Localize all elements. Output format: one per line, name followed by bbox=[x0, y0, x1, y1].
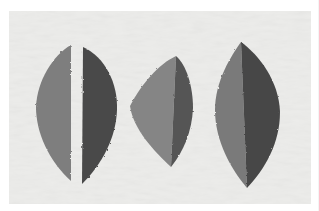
leaf-photograph bbox=[9, 11, 311, 204]
leaf-scene bbox=[9, 11, 311, 204]
photo-edge bbox=[318, 0, 319, 211]
